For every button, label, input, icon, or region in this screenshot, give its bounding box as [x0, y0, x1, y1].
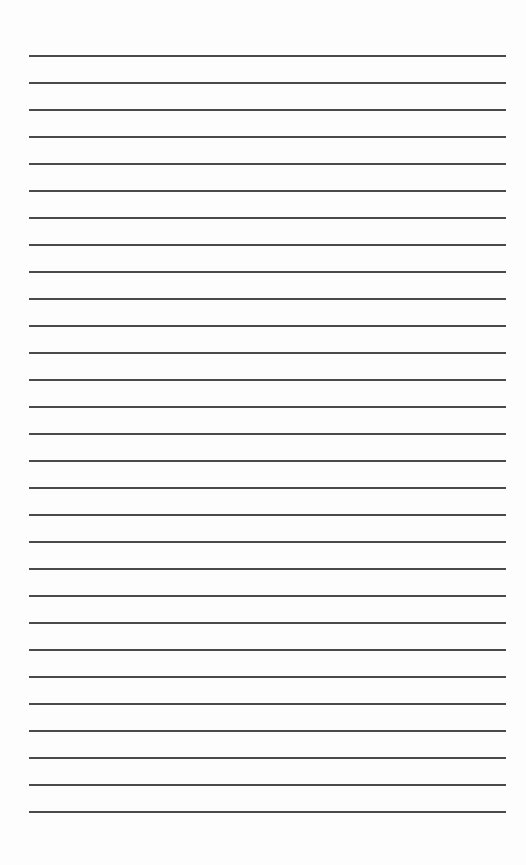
ruled-line [29, 109, 506, 111]
ruled-line [29, 82, 506, 84]
ruled-line [29, 433, 506, 435]
ruled-line [29, 460, 506, 462]
ruled-line [29, 649, 506, 651]
ruled-line [29, 811, 506, 813]
ruled-line [29, 271, 506, 273]
ruled-line [29, 730, 506, 732]
lined-paper-page [0, 0, 526, 865]
ruled-line [29, 487, 506, 489]
ruled-line [29, 190, 506, 192]
ruled-line [29, 352, 506, 354]
ruled-line [29, 244, 506, 246]
ruled-line [29, 622, 506, 624]
ruled-line [29, 676, 506, 678]
ruled-line [29, 406, 506, 408]
ruled-line [29, 541, 506, 543]
ruled-line [29, 217, 506, 219]
ruled-line [29, 55, 506, 57]
ruled-line [29, 595, 506, 597]
ruled-line [29, 757, 506, 759]
ruled-line [29, 514, 506, 516]
ruled-line [29, 784, 506, 786]
ruled-line [29, 136, 506, 138]
ruled-line [29, 568, 506, 570]
ruled-line [29, 163, 506, 165]
ruled-line [29, 325, 506, 327]
ruled-line [29, 298, 506, 300]
ruled-line [29, 703, 506, 705]
ruled-line [29, 379, 506, 381]
